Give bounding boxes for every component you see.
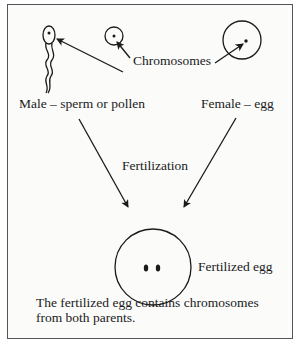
male-label: Male – sperm or pollen — [19, 96, 145, 112]
fertilized-egg-label: Fertilized egg — [198, 259, 273, 275]
caption-line-1: The fertilized egg contains chromosomes — [36, 295, 276, 310]
chromosome-arrow-pollen — [117, 42, 130, 58]
caption: The fertilized egg contains chromosomes … — [36, 295, 276, 325]
sperm-icon — [43, 26, 55, 93]
chromosomes-label: Chromosomes — [133, 53, 211, 69]
chromosome-arrow-sperm — [57, 39, 123, 72]
sperm-nucleus — [48, 32, 51, 35]
maternal-chromosome-dot — [144, 264, 148, 271]
paternal-chromosome-dot — [156, 264, 160, 271]
fertilization-arrow-male — [79, 119, 128, 207]
chromosome-arrow-egg — [215, 44, 243, 63]
pollen-icon — [105, 27, 123, 45]
female-label: Female – egg — [201, 96, 274, 112]
fertilization-arrow-female — [184, 118, 236, 207]
fertilized-egg-icon — [115, 229, 191, 305]
fertilization-label: Fertilization — [122, 158, 188, 174]
caption-line-2: from both parents. — [36, 310, 276, 325]
